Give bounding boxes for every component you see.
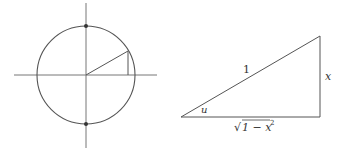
- diagram-canvas: 1 x u √ 1 − x 2: [0, 0, 339, 149]
- adjacent-label: √ 1 − x 2: [234, 119, 274, 134]
- bottom-point: [84, 122, 88, 126]
- sqrt-symbol: √: [234, 121, 242, 134]
- angle-label: u: [201, 104, 207, 115]
- adjacent-exp-label: 2: [270, 119, 274, 127]
- adjacent-base-label: 1 − x: [242, 121, 272, 134]
- top-point: [84, 24, 88, 28]
- unit-circle-figure: [14, 3, 157, 148]
- radius-line: [86, 51, 128, 75]
- opposite-label: x: [325, 70, 332, 83]
- hypotenuse-label: 1: [243, 63, 250, 76]
- diagram-svg: 1 x u √ 1 − x 2: [0, 0, 339, 149]
- right-triangle-figure: 1 x u √ 1 − x 2: [181, 36, 332, 134]
